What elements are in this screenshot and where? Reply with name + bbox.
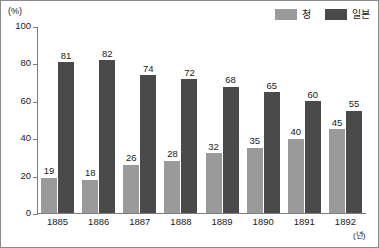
bar-value-label: 40 bbox=[291, 127, 302, 137]
bar-group: 4060 bbox=[284, 101, 325, 213]
bar[interactable]: 82 bbox=[99, 60, 115, 213]
bar-chart-figure: (%) (년) 청일본 020406080100 198118851882188… bbox=[0, 0, 379, 248]
y-axis-tick-label: 60 bbox=[20, 96, 31, 106]
bar-value-label: 32 bbox=[208, 142, 219, 152]
y-axis-tick-label: 0 bbox=[26, 208, 31, 218]
y-axis-unit-label: (%) bbox=[8, 7, 22, 16]
x-axis-tick-label: 1892 bbox=[325, 217, 366, 227]
bar[interactable]: 68 bbox=[223, 87, 239, 213]
bar-group: 3565 bbox=[243, 92, 284, 213]
bar[interactable]: 55 bbox=[346, 111, 362, 213]
bar-group: 2674 bbox=[119, 75, 160, 213]
bar-value-label: 60 bbox=[308, 90, 319, 100]
bar-value-label: 82 bbox=[102, 49, 113, 59]
y-axis-tick-label: 20 bbox=[20, 171, 31, 181]
bar-group: 3268 bbox=[202, 87, 243, 213]
legend-swatch-icon bbox=[325, 9, 347, 20]
bar-value-label: 74 bbox=[143, 64, 154, 74]
legend-entry[interactable]: 일본 bbox=[325, 9, 370, 20]
bar[interactable]: 18 bbox=[82, 180, 98, 213]
x-axis-tick-label: 1889 bbox=[202, 217, 243, 227]
bar-group: 1882 bbox=[78, 60, 119, 213]
bar-value-label: 72 bbox=[184, 68, 195, 78]
bar-value-label: 68 bbox=[225, 75, 236, 85]
chart-legend: 청일본 bbox=[275, 9, 370, 20]
plot-area: 020406080100 198118851882188626741887287… bbox=[37, 27, 366, 214]
bar-group: 2872 bbox=[160, 79, 201, 213]
bar[interactable]: 81 bbox=[58, 62, 74, 213]
bar[interactable]: 40 bbox=[288, 139, 304, 213]
x-axis-tick-label: 1886 bbox=[78, 217, 119, 227]
bar[interactable]: 65 bbox=[264, 92, 280, 213]
bar-value-label: 18 bbox=[85, 168, 96, 178]
bar-value-label: 45 bbox=[332, 118, 343, 128]
bar[interactable]: 60 bbox=[305, 101, 321, 213]
x-axis-tick-label: 1890 bbox=[243, 217, 284, 227]
y-axis-tick-label: 80 bbox=[20, 58, 31, 68]
bar[interactable]: 26 bbox=[123, 165, 139, 213]
bar-group: 4555 bbox=[325, 111, 366, 213]
y-axis-tick-mark bbox=[33, 27, 38, 28]
bar[interactable]: 19 bbox=[41, 178, 57, 213]
x-axis-tick-label: 1885 bbox=[37, 217, 78, 227]
legend-swatch-icon bbox=[275, 9, 297, 20]
bar[interactable]: 32 bbox=[206, 153, 222, 213]
bar[interactable]: 35 bbox=[247, 148, 263, 213]
x-axis-tick-label: 1888 bbox=[160, 217, 201, 227]
x-axis-tick-label: 1891 bbox=[284, 217, 325, 227]
y-axis-tick-label: 40 bbox=[20, 133, 31, 143]
bar[interactable]: 72 bbox=[181, 79, 197, 213]
y-axis-tick-label: 100 bbox=[15, 21, 31, 31]
bar-value-label: 65 bbox=[266, 81, 277, 91]
legend-entry[interactable]: 청 bbox=[275, 9, 311, 20]
bar[interactable]: 74 bbox=[140, 75, 156, 213]
x-axis-tick-label: 1887 bbox=[119, 217, 160, 227]
bar-value-label: 28 bbox=[167, 149, 178, 159]
x-axis-unit-label: (년) bbox=[353, 232, 365, 240]
legend-label: 일본 bbox=[352, 10, 370, 20]
bar[interactable]: 45 bbox=[329, 129, 345, 213]
legend-label: 청 bbox=[302, 10, 311, 20]
bar-group: 1981 bbox=[37, 62, 78, 213]
bar-value-label: 55 bbox=[349, 99, 360, 109]
bar-value-label: 19 bbox=[44, 166, 55, 176]
x-axis-line bbox=[37, 213, 366, 214]
y-axis-tick-mark bbox=[33, 214, 38, 215]
bar-value-label: 26 bbox=[126, 153, 137, 163]
bar[interactable]: 28 bbox=[164, 161, 180, 213]
bar-value-label: 81 bbox=[61, 51, 72, 61]
bar-value-label: 35 bbox=[249, 136, 260, 146]
